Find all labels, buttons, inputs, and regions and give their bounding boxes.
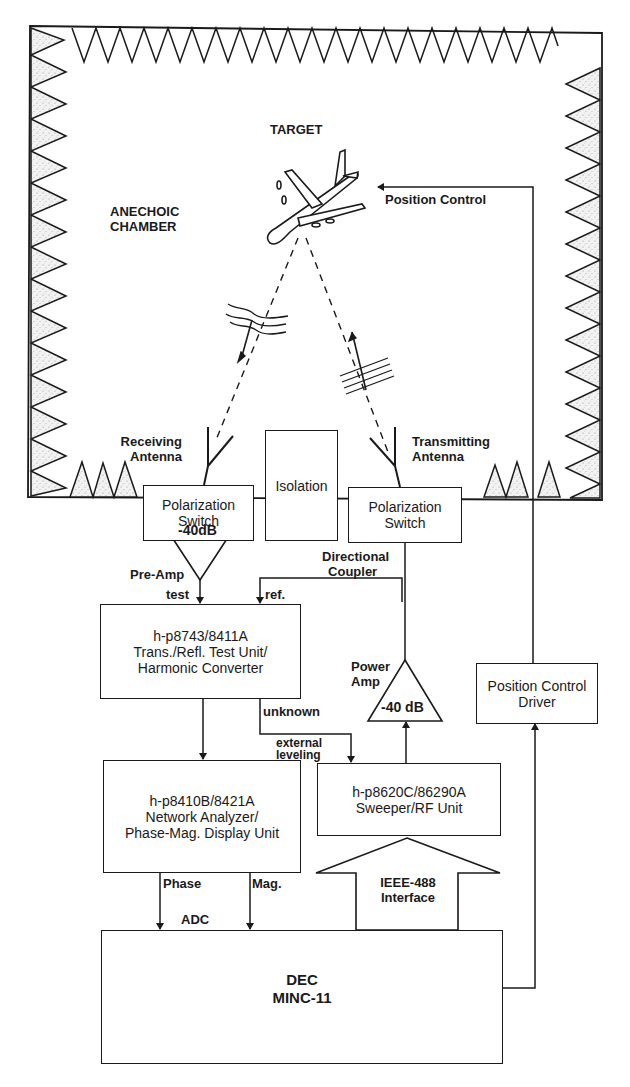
receiving-antenna-label: Receiving Antenna bbox=[120, 434, 182, 464]
transmitting-antenna-icon bbox=[370, 427, 400, 487]
external-leveling-label: external leveling bbox=[276, 737, 322, 761]
adc-label: ADC bbox=[181, 912, 209, 927]
position-control-label: Position Control bbox=[385, 192, 486, 207]
target-label: TARGET bbox=[270, 122, 322, 137]
isolation-block: Isolation bbox=[265, 430, 338, 541]
sweeper-block: h-p8620C/86290A Sweeper/RF Unit bbox=[317, 763, 501, 836]
pre-amp-label: Pre-Amp bbox=[130, 567, 184, 582]
test-port-label: test bbox=[166, 587, 189, 602]
transmitting-antenna-label: Transmitting Antenna bbox=[412, 434, 490, 464]
network-analyzer-block: h-p8410B/8421A Network Analyzer/ Phase-M… bbox=[103, 760, 301, 873]
chamber-label: ANECHOIC CHAMBER bbox=[110, 204, 179, 234]
ref-port-label: ref. bbox=[265, 587, 285, 602]
propagation-paths bbox=[216, 238, 388, 452]
diagram-canvas bbox=[0, 0, 630, 1087]
mag-label: Mag. bbox=[252, 876, 282, 891]
directional-coupler-label: Directional Coupler bbox=[322, 549, 389, 579]
pre-amp-gain: -40dB bbox=[178, 523, 217, 538]
test-unit-block: h-p8743/8411A Trans./Refl. Test Unit/ Ha… bbox=[100, 604, 301, 699]
airplane-target-icon bbox=[268, 150, 365, 244]
transmitted-wave-icon bbox=[340, 332, 394, 394]
phase-label: Phase bbox=[163, 876, 201, 891]
signal-lines bbox=[160, 519, 535, 988]
polarization-switch-right: Polarization Switch bbox=[348, 487, 462, 543]
left-absorber-spikes bbox=[31, 28, 66, 496]
unknown-port-label: unknown bbox=[263, 704, 320, 719]
top-absorber-spikes bbox=[72, 28, 558, 62]
received-wave-icon bbox=[226, 304, 288, 362]
dec-minc-11-computer: DEC MINC-11 bbox=[101, 930, 503, 1064]
right-absorber-spikes bbox=[566, 68, 600, 498]
power-amp-gain: -40 dB bbox=[381, 700, 424, 715]
position-control-driver-block: Position Control Driver bbox=[476, 663, 598, 724]
ieee-488-label: IEEE-488 Interface bbox=[380, 875, 436, 905]
power-amp-label: Power Amp bbox=[351, 659, 390, 689]
